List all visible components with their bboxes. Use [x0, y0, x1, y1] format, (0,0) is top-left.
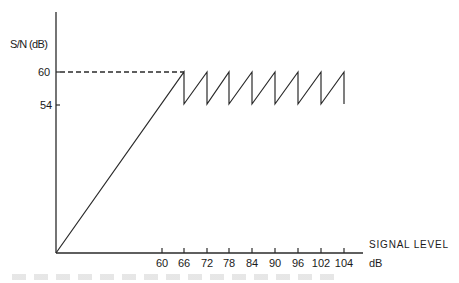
y-tick-label-60: 60	[38, 66, 50, 78]
y-tick-label-54: 54	[40, 99, 52, 111]
x-tick-label: 66	[178, 257, 190, 269]
sn-curve	[56, 72, 344, 253]
x-ticks	[162, 248, 344, 253]
x-tick-label: 84	[246, 257, 258, 269]
x-tick-label: 90	[269, 257, 281, 269]
x-axis-title: SIGNAL LEVEL	[369, 239, 449, 250]
x-tick-label: 72	[201, 257, 213, 269]
x-tick-label: 104	[335, 257, 353, 269]
sn-vs-signal-level-chart: S/N (dB) 60 54 60 66 72 78 84 90 96 102 …	[0, 0, 459, 283]
x-tick-labels: 60 66 72 78 84 90 96 102 104	[156, 257, 353, 269]
x-tick-label: 102	[312, 257, 330, 269]
x-tick-label: 96	[292, 257, 304, 269]
y-axis-title: S/N (dB)	[10, 38, 47, 50]
x-axis-unit: dB	[369, 257, 382, 269]
x-tick-label: 60	[156, 257, 168, 269]
caption-fragment	[12, 274, 342, 280]
x-tick-label: 78	[223, 257, 235, 269]
